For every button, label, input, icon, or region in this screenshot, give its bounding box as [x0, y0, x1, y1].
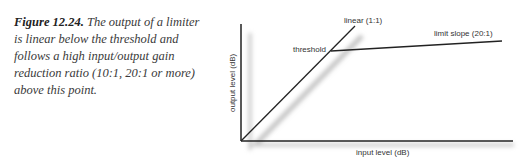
threshold-label: threshold — [293, 45, 326, 54]
limiter-transfer-diagram: linear (1:1) limit slope (20:1) threshol… — [0, 0, 528, 164]
limit-slope-label: limit slope (20:1) — [434, 29, 493, 38]
linear-label: linear (1:1) — [344, 16, 383, 25]
y-axis-label: output level (dB) — [228, 53, 237, 112]
linear-line — [241, 26, 355, 141]
x-axis-label: input level (dB) — [356, 148, 410, 157]
